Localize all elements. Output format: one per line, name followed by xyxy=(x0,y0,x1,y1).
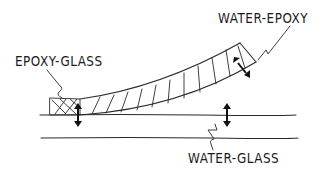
epoxy-layer xyxy=(80,43,256,115)
label-water-epoxy: WATER-EPOXY xyxy=(218,10,308,26)
leader-lines xyxy=(47,26,290,150)
epoxy-glass-interface xyxy=(50,98,80,115)
label-water-glass: WATER-GLASS xyxy=(188,150,279,166)
label-epoxy-glass: EPOXY-GLASS xyxy=(15,53,103,69)
